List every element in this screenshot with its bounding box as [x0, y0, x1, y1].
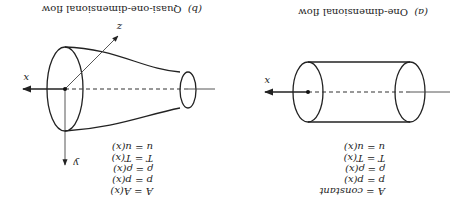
figure-b-y-axis: y	[65, 89, 80, 169]
z-axis-label: z	[116, 22, 123, 33]
equation-velocity: u = u(x)	[112, 142, 153, 153]
figure-b-x-axis: x	[23, 73, 215, 89]
flow-diagram: A = constant p = p(x) ρ = ρ(x) T = T(x) …	[0, 0, 465, 220]
equation-area: A = A(x)	[110, 186, 154, 197]
y-axis-label: y	[73, 158, 80, 169]
inlet-cross-section	[180, 72, 196, 108]
equation-density: ρ = ρ(x)	[345, 164, 386, 175]
x-axis-label: x	[264, 76, 270, 87]
figure-a-one-dimensional: A = constant p = p(x) ρ = ρ(x) T = T(x) …	[264, 7, 450, 197]
figure-b-quasi-one-dimensional: A = A(x) p = p(x) ρ = ρ(x) T = T(x) u = …	[23, 4, 215, 197]
figure-b-caption: (b) Quasi-one-dimensional flow	[41, 4, 202, 15]
figure-a-caption: (a) One-dimensional flow	[298, 7, 428, 18]
origin-dot	[63, 87, 67, 91]
origin-dot	[306, 90, 310, 94]
equation-temperature: T = T(x)	[111, 153, 153, 164]
equation-pressure: p = p(x)	[344, 175, 385, 186]
equation-area: A = constant	[318, 186, 386, 197]
equation-temperature: T = T(x)	[343, 153, 385, 164]
figure-a-x-axis: x	[264, 76, 450, 94]
figure-a-equations: A = constant p = p(x) ρ = ρ(x) T = T(x) …	[318, 142, 386, 197]
figure-b-equations: A = A(x) p = p(x) ρ = ρ(x) T = T(x) u = …	[110, 142, 154, 197]
equation-density: ρ = ρ(x)	[113, 164, 154, 175]
equation-pressure: p = p(x)	[112, 175, 153, 186]
equation-velocity: u = u(x)	[344, 142, 385, 153]
x-axis-label: x	[23, 73, 29, 84]
